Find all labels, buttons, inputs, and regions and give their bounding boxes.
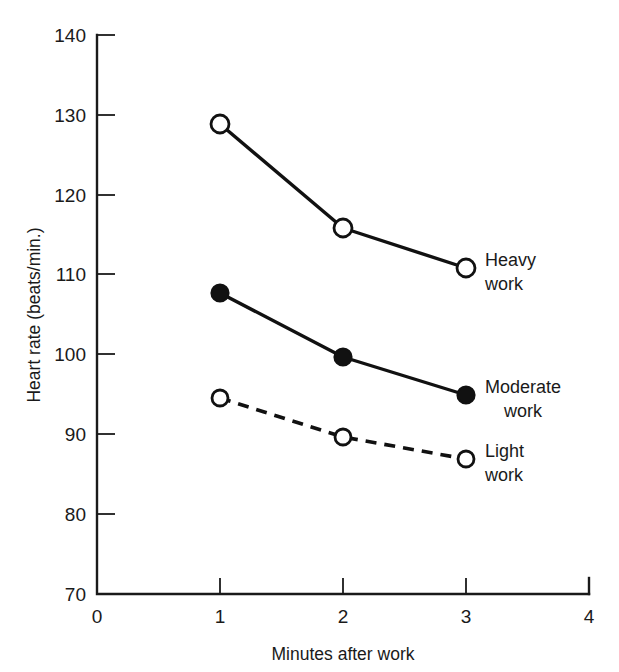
- heavy-work-point-1: [211, 115, 229, 133]
- light-work-label-line2: work: [484, 465, 524, 485]
- light-work-label-line1: Light: [485, 441, 524, 461]
- x-tick-label-1: 1: [215, 606, 226, 627]
- heart-rate-recovery-chart: 140 130 120 110 100 90 80 70 0 1 2 3 4 H…: [0, 0, 619, 672]
- light-work-point-2: [335, 429, 351, 445]
- axis-lines: [97, 35, 589, 594]
- y-tick-labels: 140 130 120 110 100 90 80 70: [54, 25, 86, 605]
- series-moderate-work: Moderate work: [212, 285, 562, 422]
- x-tick-marks: [220, 578, 466, 594]
- series-light-work: Light work: [212, 390, 524, 485]
- heavy-work-point-3: [457, 259, 475, 277]
- moderate-work-point-1: [212, 285, 229, 302]
- moderate-work-line: [220, 293, 466, 395]
- x-tick-label-3: 3: [461, 606, 472, 627]
- y-tick-label-70: 70: [65, 584, 86, 605]
- axes-group: [97, 35, 589, 594]
- heavy-work-label-line2: work: [484, 274, 524, 294]
- heavy-work-label-line1: Heavy: [485, 250, 536, 270]
- heavy-work-line: [220, 124, 466, 268]
- x-tick-label-0: 0: [92, 606, 103, 627]
- y-tick-label-90: 90: [65, 424, 86, 445]
- y-tick-label-130: 130: [54, 105, 86, 126]
- y-tick-label-120: 120: [54, 185, 86, 206]
- moderate-work-label-line2: work: [503, 401, 543, 421]
- x-axis-title: Minutes after work: [272, 644, 415, 664]
- y-tick-label-110: 110: [56, 264, 86, 285]
- moderate-work-label-line1: Moderate: [485, 377, 561, 397]
- chart-canvas: 140 130 120 110 100 90 80 70 0 1 2 3 4 H…: [0, 0, 619, 672]
- y-tick-label-140: 140: [54, 25, 86, 46]
- light-work-point-1: [212, 390, 228, 406]
- x-tick-label-2: 2: [338, 606, 349, 627]
- heavy-work-point-2: [334, 219, 352, 237]
- y-axis-title: Heart rate (beats/min.): [24, 227, 44, 402]
- y-tick-label-80: 80: [65, 504, 86, 525]
- light-work-point-3: [458, 451, 474, 467]
- moderate-work-point-2: [335, 349, 352, 366]
- moderate-work-point-3: [458, 387, 475, 404]
- series-heavy-work: Heavy work: [211, 115, 536, 294]
- x-tick-label-4: 4: [584, 606, 595, 627]
- y-tick-label-100: 100: [54, 344, 86, 365]
- y-tick-marks: [97, 35, 115, 514]
- x-tick-labels: 0 1 2 3 4: [92, 606, 595, 627]
